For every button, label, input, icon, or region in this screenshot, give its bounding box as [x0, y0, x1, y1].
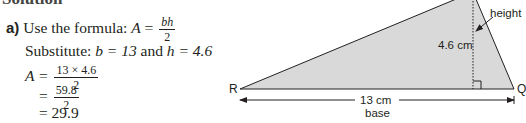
base-label: base: [365, 107, 390, 119]
height-value-label: 4.6 cm: [438, 39, 473, 51]
vertex-r-label: R: [229, 82, 238, 96]
base-value-label: 13 cm: [360, 94, 391, 106]
vertex-q-label: Q: [517, 82, 526, 96]
triangle-diagram: R Q 4.6 cm height 13 cm base: [0, 0, 526, 123]
height-label: height: [490, 7, 522, 19]
